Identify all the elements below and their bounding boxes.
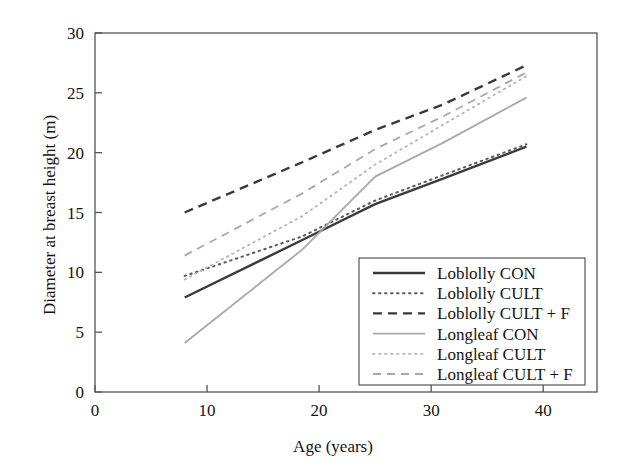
legend-label-2: Loblolly CULT + F bbox=[437, 304, 570, 323]
y-tick-label: 10 bbox=[67, 263, 84, 282]
legend-label-1: Loblolly CULT bbox=[437, 284, 543, 303]
chart-legend: Loblolly CONLoblolly CULTLoblolly CULT +… bbox=[359, 258, 585, 385]
series-line-2 bbox=[185, 65, 527, 212]
y-tick-label: 20 bbox=[67, 144, 84, 163]
y-tick-label: 25 bbox=[67, 84, 84, 103]
legend-label-4: Longleaf CULT bbox=[437, 345, 546, 364]
series-line-4 bbox=[185, 76, 527, 279]
y-tick-label: 15 bbox=[67, 204, 84, 223]
y-tick-label: 5 bbox=[76, 323, 85, 342]
series-line-1 bbox=[185, 144, 527, 276]
x-axis-title: Age (years) bbox=[0, 437, 626, 457]
chart-figure: 010203040051015202530 Loblolly CONLoblol… bbox=[0, 0, 626, 472]
line-chart-canvas: 010203040051015202530 Loblolly CONLoblol… bbox=[0, 0, 626, 472]
legend-label-5: Longleaf CULT + F bbox=[437, 365, 573, 384]
y-tick-label: 0 bbox=[76, 383, 85, 402]
legend-label-3: Longleaf CON bbox=[437, 325, 539, 344]
x-tick-label: 10 bbox=[199, 401, 216, 420]
x-tick-label: 20 bbox=[311, 401, 328, 420]
y-axis-title: Diameter at breast height (m) bbox=[40, 5, 60, 425]
legend-label-0: Loblolly CON bbox=[437, 264, 536, 283]
y-tick-label: 30 bbox=[67, 24, 84, 43]
x-tick-label: 30 bbox=[423, 401, 440, 420]
x-tick-label: 40 bbox=[535, 401, 552, 420]
x-tick-label: 0 bbox=[91, 401, 100, 420]
